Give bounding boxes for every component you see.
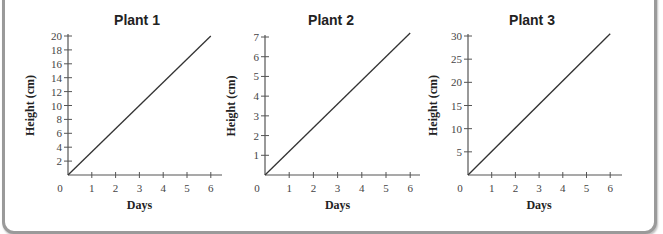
x-tick-label: 6 — [607, 182, 613, 194]
series-line — [265, 33, 410, 175]
x-axis-label: Days — [325, 198, 351, 212]
plots-canvas: 01234562468101214161820DaysHeight (cm)01… — [0, 0, 663, 234]
x-tick-label: 1 — [286, 182, 292, 194]
chart-3-plot: 012345651015202530DaysHeight (cm) — [426, 30, 622, 212]
y-tick-label: 1 — [254, 149, 260, 161]
y-tick-label: 8 — [57, 113, 63, 125]
x-tick-label: 2 — [311, 182, 317, 194]
x-tick-label: 5 — [383, 182, 389, 194]
y-tick-label: 4 — [254, 90, 260, 102]
x-tick-label: 0 — [457, 182, 463, 194]
y-tick-label: 5 — [254, 70, 260, 82]
y-tick-label: 10 — [451, 123, 463, 135]
y-tick-label: 14 — [51, 72, 63, 84]
chart-1-plot: 01234562468101214161820DaysHeight (cm) — [23, 30, 222, 212]
y-tick-label: 18 — [51, 44, 63, 56]
x-tick-label: 4 — [359, 182, 365, 194]
y-tick-label: 6 — [57, 127, 63, 139]
x-tick-label: 3 — [137, 182, 143, 194]
y-tick-label: 12 — [51, 86, 62, 98]
y-tick-label: 6 — [254, 51, 260, 63]
x-tick-label: 0 — [57, 182, 63, 194]
x-tick-label: 2 — [513, 182, 519, 194]
y-tick-label: 2 — [254, 130, 260, 142]
x-tick-label: 5 — [184, 182, 190, 194]
series-line — [468, 34, 610, 175]
y-axis-label: Height (cm) — [23, 75, 37, 136]
x-axis-label: Days — [127, 198, 153, 212]
y-tick-label: 10 — [51, 100, 63, 112]
y-tick-label: 15 — [451, 100, 463, 112]
x-tick-label: 3 — [335, 182, 341, 194]
y-tick-label: 20 — [451, 76, 463, 88]
y-tick-label: 3 — [254, 110, 260, 122]
y-tick-label: 2 — [57, 155, 63, 167]
series-line — [68, 36, 211, 175]
x-tick-label: 3 — [536, 182, 542, 194]
x-axis-label: Days — [526, 198, 552, 212]
chart-2-plot: 01234561234567DaysHeight (cm) — [224, 31, 420, 212]
y-tick-label: 25 — [451, 53, 463, 65]
y-tick-label: 20 — [51, 30, 63, 42]
x-tick-label: 6 — [407, 182, 413, 194]
y-tick-label: 4 — [57, 141, 63, 153]
y-tick-label: 30 — [451, 30, 463, 42]
y-tick-label: 7 — [254, 31, 260, 43]
y-axis-label: Height (cm) — [224, 76, 238, 137]
x-tick-label: 5 — [584, 182, 590, 194]
x-tick-label: 6 — [208, 182, 214, 194]
x-tick-label: 1 — [89, 182, 95, 194]
x-tick-label: 0 — [254, 182, 260, 194]
x-tick-label: 4 — [560, 182, 566, 194]
x-tick-label: 4 — [160, 182, 166, 194]
x-tick-label: 1 — [489, 182, 495, 194]
x-tick-label: 2 — [113, 182, 119, 194]
y-tick-label: 16 — [51, 58, 63, 70]
y-tick-label: 5 — [457, 146, 463, 158]
y-axis-label: Height (cm) — [426, 75, 440, 136]
